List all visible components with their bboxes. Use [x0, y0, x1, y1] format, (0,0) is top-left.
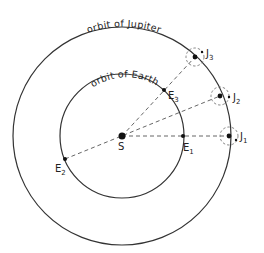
j1-label: J1 — [239, 131, 247, 145]
sun-marker — [119, 133, 126, 140]
jupiter-position-1 — [227, 134, 232, 139]
earth-position-3 — [162, 88, 166, 92]
orbit-diagram: orbit of Jupiter orbit of Earth S E1 E2 … — [0, 0, 264, 253]
j2-moon — [228, 96, 230, 98]
j3-moon — [201, 51, 203, 53]
earth-orbit-label: orbit of Earth — [88, 68, 161, 89]
jupiter-position-2 — [218, 94, 223, 99]
earth-position-1 — [181, 134, 185, 138]
j3-label: J3 — [205, 48, 213, 62]
e1-label: E1 — [183, 142, 194, 156]
j1-moon — [235, 139, 237, 141]
e2-label: E2 — [55, 163, 66, 177]
jupiter-orbit-label: orbit of Jupiter — [85, 18, 163, 35]
earth-position-2 — [63, 157, 67, 161]
e3-label: E3 — [168, 90, 179, 104]
j2-label: J2 — [232, 92, 240, 106]
sightline-e2-j2 — [65, 96, 220, 159]
sun-label: S — [118, 141, 124, 152]
jupiter-position-3 — [193, 55, 198, 60]
